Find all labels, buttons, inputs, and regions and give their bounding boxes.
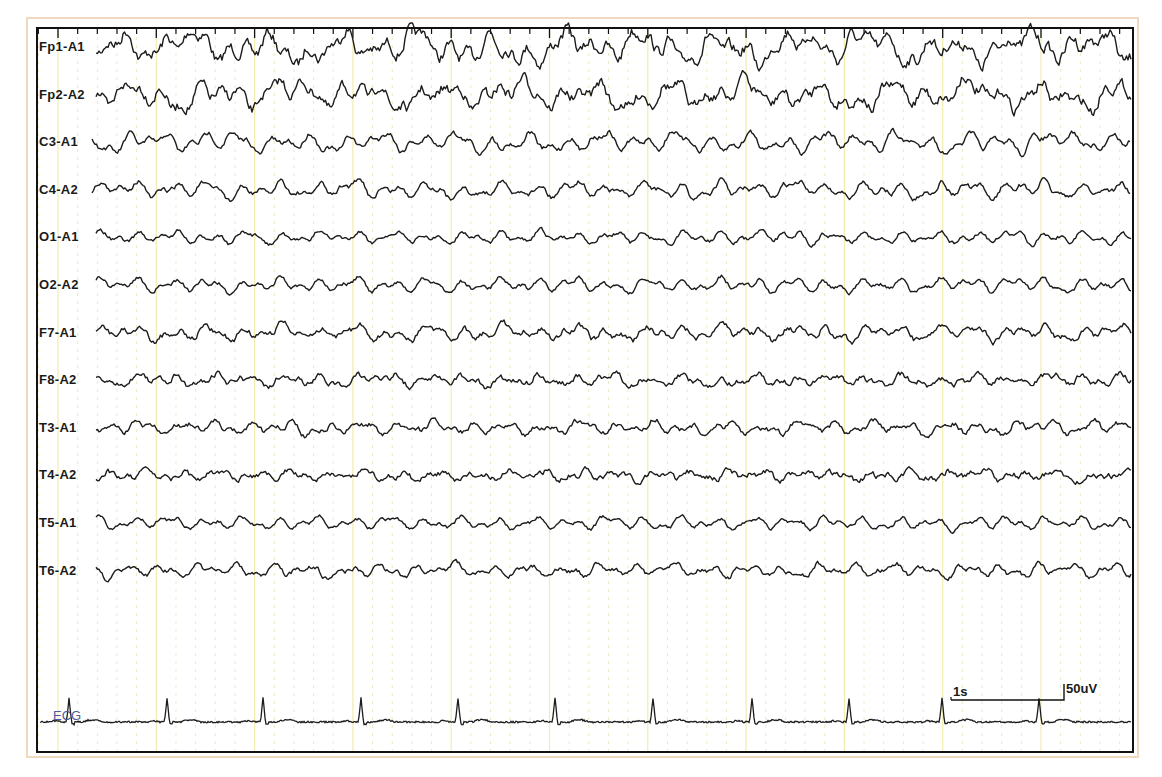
scale-time-label: 1s — [953, 684, 967, 699]
eeg-trace-o2-a2 — [96, 275, 1131, 295]
eeg-plot — [0, 0, 1162, 777]
eeg-trace-t4-a2 — [96, 467, 1131, 485]
time-ticks — [38, 29, 1119, 38]
channel-label-o1-a1: O1-A1 — [39, 229, 79, 244]
channel-label-fp1-a1: Fp1-A1 — [39, 39, 85, 54]
eeg-trace-t6-a2 — [96, 559, 1131, 581]
channel-label-o2-a2: O2-A2 — [39, 277, 79, 292]
eeg-trace-c3-a1 — [92, 128, 1130, 156]
channel-label-t3-a1: T3-A1 — [39, 420, 77, 435]
eeg-trace-fp1-a1 — [96, 23, 1131, 71]
channel-label-f7-a1: F7-A1 — [39, 325, 77, 340]
eeg-trace-f7-a1 — [96, 320, 1131, 345]
channel-label-t5-a1: T5-A1 — [39, 515, 77, 530]
ecg-trace — [40, 697, 1131, 725]
channel-label-t4-a2: T4-A2 — [39, 467, 77, 482]
eeg-trace-fp2-a2 — [96, 71, 1131, 116]
eeg-traces — [92, 23, 1131, 582]
eeg-trace-t5-a1 — [96, 515, 1131, 534]
grid-lines — [38, 29, 1119, 751]
eeg-trace-t3-a1 — [96, 418, 1131, 438]
eeg-trace-f8-a2 — [96, 371, 1131, 390]
eeg-trace-o1-a1 — [96, 227, 1131, 247]
channel-label-fp2-a2: Fp2-A2 — [39, 87, 85, 102]
channel-label-t6-a2: T6-A2 — [39, 563, 77, 578]
channel-label-c4-a2: C4-A2 — [39, 182, 78, 197]
channel-label-f8-a2: F8-A2 — [39, 372, 77, 387]
scale-amplitude-label: 50uV — [1066, 681, 1097, 696]
eeg-trace-c4-a2 — [92, 178, 1130, 202]
scale-bar — [951, 684, 1064, 700]
ecg-label: ECG — [53, 708, 81, 723]
channel-label-c3-a1: C3-A1 — [39, 134, 78, 149]
